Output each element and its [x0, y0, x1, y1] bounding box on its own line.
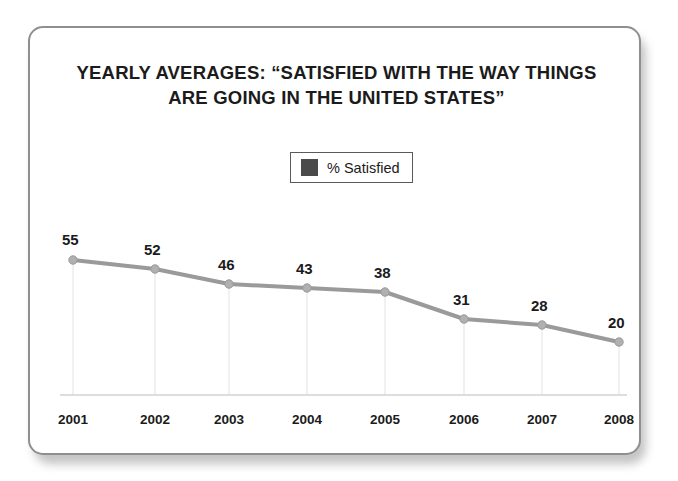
- data-label-2005: 38: [374, 264, 391, 281]
- data-point-2002: [151, 265, 159, 273]
- x-axis-tick-2007: 2007: [527, 412, 557, 427]
- chart-card: YEARLY AVERAGES: “SATISFIED WITH THE WAY…: [28, 26, 641, 455]
- data-point-2001: [69, 256, 77, 264]
- data-label-2006: 31: [453, 291, 470, 308]
- screenshot-root: YEARLY AVERAGES: “SATISFIED WITH THE WAY…: [0, 0, 678, 481]
- data-point-2004: [303, 284, 311, 292]
- x-axis-tick-2005: 2005: [370, 412, 400, 427]
- data-point-2003: [225, 280, 233, 288]
- gridlines: [73, 260, 619, 395]
- data-point-2006: [460, 315, 468, 323]
- data-point-2007: [538, 321, 546, 329]
- x-axis-tick-2006: 2006: [449, 412, 479, 427]
- chart-title-line-2: ARE GOING IN THE UNITED STATES”: [60, 85, 613, 110]
- data-label-2001: 55: [62, 231, 79, 248]
- x-axis-tick-2002: 2002: [140, 412, 170, 427]
- chart-legend: % Satisfied: [290, 152, 413, 183]
- legend-swatch-icon: [301, 159, 318, 176]
- x-axis-tick-2008: 2008: [604, 412, 634, 427]
- x-axis-tick-2001: 2001: [58, 412, 88, 427]
- data-label-2003: 46: [218, 256, 235, 273]
- data-point-2008: [615, 338, 623, 346]
- data-label-2004: 43: [296, 260, 313, 277]
- data-point-2005: [381, 288, 389, 296]
- x-axis-tick-2003: 2003: [214, 412, 244, 427]
- data-label-2007: 28: [531, 297, 548, 314]
- data-label-2002: 52: [144, 241, 161, 258]
- page-title: YEARLY AVERAGES: “SATISFIED WITH THE WAY…: [60, 60, 613, 110]
- x-axis-tick-2004: 2004: [292, 412, 322, 427]
- legend-label: % Satisfied: [327, 160, 400, 176]
- chart-title-line-1: YEARLY AVERAGES: “SATISFIED WITH THE WAY…: [77, 62, 597, 83]
- data-label-2008: 20: [608, 314, 625, 331]
